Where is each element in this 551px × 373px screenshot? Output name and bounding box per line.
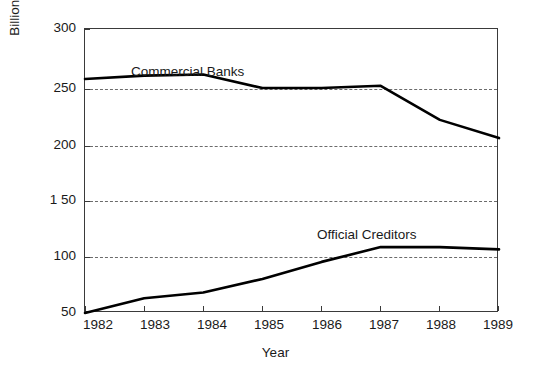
x-tick-label-1984: 1984 [197, 318, 227, 332]
y-tick-label-300: 300 [53, 21, 76, 35]
x-axis-title: Year [0, 345, 551, 360]
chart-figure: Billions of 1982 Dollars 300 250 200 1 5… [0, 0, 551, 373]
y-tick-label-100: 100 [53, 249, 76, 263]
x-tick-label-1988: 1988 [426, 318, 456, 332]
x-tick-label-1986: 1986 [312, 318, 342, 332]
line-official-creditors [85, 247, 499, 313]
series-label-official-creditors: Official Creditors [317, 228, 417, 242]
y-tick-label-250: 250 [53, 81, 76, 95]
x-tick-label-1982: 1982 [83, 318, 113, 332]
x-tick-label-1987: 1987 [369, 318, 399, 332]
y-axis-title: Billions of 1982 Dollars [4, 0, 26, 82]
y-tick-label-200: 200 [53, 138, 76, 152]
series-label-commercial-banks: Commercial Banks [131, 65, 244, 79]
y-tick-label-50: 50 [61, 305, 76, 319]
x-tick-label-1989: 1989 [483, 318, 513, 332]
x-tick-label-1985: 1985 [254, 318, 284, 332]
line-commercial-banks [85, 74, 499, 138]
y-tick-label-150: 1 50 [50, 193, 76, 207]
plot-area: Commercial Banks Official Creditors [84, 28, 498, 312]
x-tick-label-1983: 1983 [140, 318, 170, 332]
